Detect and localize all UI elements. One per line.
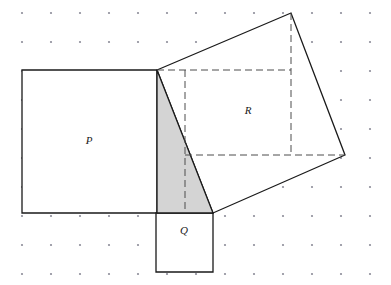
grid-dot	[282, 186, 284, 188]
grid-dot	[253, 12, 255, 14]
grid-dot	[21, 215, 23, 217]
grid-dot	[340, 215, 342, 217]
grid-dot	[340, 244, 342, 246]
grid-dot	[195, 41, 197, 43]
grid-dot	[50, 215, 52, 217]
grid-dot	[50, 12, 52, 14]
grid-dot	[282, 12, 284, 14]
grid-dot	[311, 215, 313, 217]
grid-dot	[50, 41, 52, 43]
grid-dot	[137, 41, 139, 43]
grid-dot	[311, 12, 313, 14]
grid-dot	[369, 157, 371, 159]
grid-dot	[369, 244, 371, 246]
grid-dot	[195, 12, 197, 14]
grid-dot	[369, 273, 371, 275]
grid-dot	[137, 215, 139, 217]
grid-dot	[369, 41, 371, 43]
grid-dot	[79, 244, 81, 246]
grid-dot	[108, 215, 110, 217]
grid-dot	[253, 244, 255, 246]
grid-dot	[253, 215, 255, 217]
grid-dot	[340, 70, 342, 72]
grid-dot	[108, 41, 110, 43]
grid-dot	[340, 186, 342, 188]
grid-dot	[21, 41, 23, 43]
grid-dot	[369, 12, 371, 14]
grid-dot	[369, 215, 371, 217]
grid-dot	[369, 70, 371, 72]
grid-dot	[340, 41, 342, 43]
grid-dot	[195, 273, 197, 275]
grid-dot	[166, 12, 168, 14]
grid-dot	[311, 41, 313, 43]
geometry-figure: Geometric dot-grid figure with three squ…	[0, 0, 391, 285]
grid-dot	[369, 128, 371, 130]
grid-dot	[224, 244, 226, 246]
grid-dot	[21, 244, 23, 246]
label-square-r: R	[244, 104, 252, 116]
label-square-p: P	[85, 134, 93, 146]
grid-dot	[137, 244, 139, 246]
grid-dot	[224, 215, 226, 217]
grid-dot	[166, 273, 168, 275]
grid-dot	[311, 273, 313, 275]
grid-dot	[253, 273, 255, 275]
grid-dot	[311, 186, 313, 188]
grid-dot	[369, 99, 371, 101]
grid-dot	[21, 273, 23, 275]
figure-root: Geometric dot-grid figure with three squ…	[0, 0, 391, 285]
grid-dot	[108, 12, 110, 14]
grid-dot	[50, 273, 52, 275]
grid-dot	[340, 128, 342, 130]
grid-dot	[79, 273, 81, 275]
grid-dot	[166, 41, 168, 43]
grid-dot	[282, 244, 284, 246]
grid-dot	[108, 244, 110, 246]
grid-dot	[340, 273, 342, 275]
grid-dot	[369, 186, 371, 188]
square-q	[156, 213, 213, 272]
grid-dot	[340, 12, 342, 14]
label-square-q: Q	[180, 224, 188, 236]
grid-dot	[137, 273, 139, 275]
grid-dot	[21, 12, 23, 14]
grid-dot	[50, 244, 52, 246]
grid-dot	[224, 273, 226, 275]
grid-dot	[282, 215, 284, 217]
grid-dot	[79, 41, 81, 43]
grid-dot	[282, 273, 284, 275]
grid-dot	[79, 215, 81, 217]
grid-dot	[224, 12, 226, 14]
grid-dot	[311, 244, 313, 246]
grid-dot	[137, 12, 139, 14]
grid-dot	[340, 99, 342, 101]
grid-dot	[79, 12, 81, 14]
grid-dot	[108, 273, 110, 275]
